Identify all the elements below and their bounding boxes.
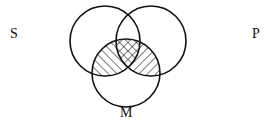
label-p: P	[252, 27, 260, 41]
venn-diagram	[0, 0, 265, 121]
label-s: S	[10, 27, 18, 41]
label-m: M	[120, 106, 132, 120]
